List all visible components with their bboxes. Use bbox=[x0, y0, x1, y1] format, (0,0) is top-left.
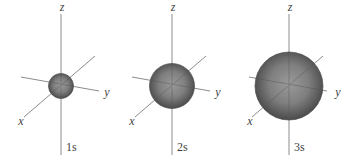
axes-through-sphere bbox=[21, 14, 99, 155]
axis-label-y: y bbox=[334, 85, 341, 99]
orbital-label: 3s bbox=[294, 140, 305, 154]
axis-label-z: z bbox=[59, 0, 65, 14]
axis-label-y: y bbox=[214, 85, 221, 99]
orbital-diagram-1s: z y x 1s bbox=[17, 0, 110, 155]
orbital-label: 1s bbox=[66, 140, 77, 154]
axis-label-z: z bbox=[287, 0, 293, 14]
orbital-diagram-2s: z y x 2s bbox=[128, 0, 221, 155]
orbitals-svg: z y x 1s z y x 2s bbox=[0, 0, 353, 168]
axis-label-x: x bbox=[246, 114, 253, 128]
axis-label-y: y bbox=[103, 85, 110, 99]
axis-label-x: x bbox=[128, 114, 135, 128]
axis-label-z: z bbox=[170, 0, 176, 14]
axes-through-sphere bbox=[132, 14, 210, 155]
axis-label-x: x bbox=[17, 114, 24, 128]
orbitals-figure: z y x 1s z y x 2s bbox=[0, 0, 353, 168]
orbital-diagram-3s: z y x 3s bbox=[246, 0, 341, 155]
orbital-label: 2s bbox=[177, 140, 188, 154]
